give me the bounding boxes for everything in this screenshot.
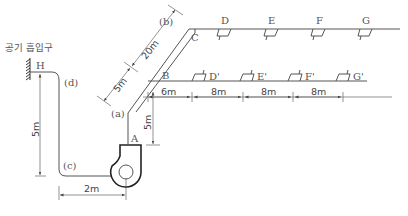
svg-text:E': E' <box>257 71 267 82</box>
svg-text:8m: 8m <box>261 86 276 97</box>
svg-text:F: F <box>316 15 323 26</box>
outlet-E: E <box>264 15 278 40</box>
svg-text:F': F' <box>305 71 315 82</box>
dim-horizontal-run: 6m 8m 8m 8m <box>143 86 392 102</box>
point-B: B <box>162 70 169 81</box>
svg-text:D: D <box>221 15 229 26</box>
outlet-F-prime: F' <box>288 70 315 82</box>
inlet-label: 공기 흡입구 <box>5 42 53 53</box>
outlet-G-prime: G' <box>336 70 364 82</box>
svg-text:D': D' <box>209 71 220 82</box>
outlet-D-prime: D' <box>192 70 220 82</box>
svg-text:5m: 5m <box>142 115 153 130</box>
inlet-wall <box>26 58 30 80</box>
outlet-G: G <box>358 15 372 40</box>
svg-text:20m: 20m <box>139 38 161 62</box>
lower-outlets: D' E' F' G' <box>192 70 364 82</box>
point-A: A <box>130 133 139 144</box>
svg-text:G: G <box>362 15 370 26</box>
svg-text:E: E <box>268 15 275 26</box>
svg-text:6m: 6m <box>161 86 176 97</box>
point-c: (c) <box>63 160 77 171</box>
outlet-F: F <box>311 15 325 40</box>
svg-text:2m: 2m <box>84 183 99 194</box>
svg-text:8m: 8m <box>311 86 326 97</box>
dim-inlet-horizontal: 2m <box>59 183 126 200</box>
fan <box>111 145 141 187</box>
upper-outlets: D E F G <box>217 15 372 40</box>
point-H: H <box>36 60 45 71</box>
svg-text:5m: 5m <box>30 122 41 137</box>
outlet-D: D <box>217 15 231 40</box>
dim-inlet-vertical: 5m <box>30 74 46 176</box>
svg-text:G': G' <box>353 71 364 82</box>
point-C: C <box>191 32 199 43</box>
duct-diagram: 공기 흡입구 H (d) (c) 5m 2m A (b) C B (a) 5m <box>0 0 408 216</box>
svg-text:5m: 5m <box>111 75 129 94</box>
outlet-E-prime: E' <box>240 70 267 82</box>
svg-text:8m: 8m <box>211 86 226 97</box>
point-d: (d) <box>64 77 78 88</box>
point-a: (a) <box>111 108 125 119</box>
